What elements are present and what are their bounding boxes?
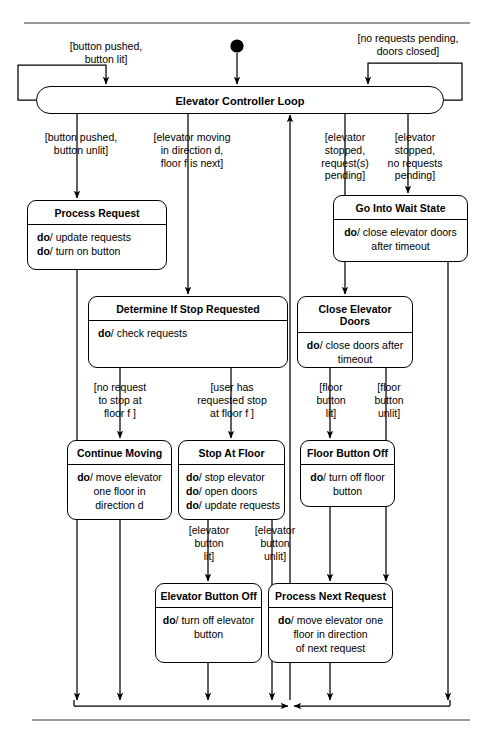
state-process-request[interactable]: Process Request do/ update requests do/ … (27, 200, 167, 270)
state-actions: do/ move elevator one floor in direction… (269, 608, 392, 662)
action-line: button (194, 628, 223, 640)
state-stop-at-floor[interactable]: Stop At Floor do/ stop elevator do/ open… (178, 440, 285, 520)
guard-user-requested-stop: [user has requested stop at floor f ] (180, 381, 284, 419)
state-actions: do/ move elevator one floor in direction… (68, 465, 171, 519)
state-title: Elevator Button Off (156, 584, 261, 608)
action-line: / update requests (199, 499, 280, 511)
state-elevator-button-off[interactable]: Elevator Button Off do/ turn off elevato… (155, 583, 262, 663)
initial-dot (230, 39, 243, 52)
state-continue-moving[interactable]: Continue Moving do/ move elevator one fl… (67, 440, 172, 520)
action-line: one floor in (94, 485, 146, 497)
action-line: / turn off elevator (176, 614, 255, 626)
state-close-elevator-doors[interactable]: Close Elevator Doors do/ close doors aft… (297, 296, 413, 368)
state-floor-button-off[interactable]: Floor Button Off do/ turn off floor butt… (300, 440, 395, 507)
state-actions: do/ update requests do/ turn on button (28, 225, 166, 265)
action-line: / turn on button (50, 245, 121, 257)
guard-elevator-button-lit: [elevator button lit] (178, 524, 240, 562)
action-line: / close elevator doors (357, 226, 457, 238)
guard-floor-button-unlit: [floor button unlit] (358, 381, 420, 419)
action-line: button (333, 485, 362, 497)
guard-button-pushed-lit: [button pushed, button lit] (26, 40, 186, 66)
state-actions: do/ close doors after timeout (298, 333, 412, 373)
action-line: of next request (296, 642, 365, 654)
guard-no-request-to-stop: [no request to stop at floor f ] (72, 381, 168, 419)
state-title: Process Next Request (269, 584, 392, 608)
state-title: Close Elevator Doors (298, 297, 412, 333)
state-actions: do/ turn off elevator button (156, 608, 261, 648)
guard-elevator-button-unlit: [elevator button unlit] (242, 524, 308, 562)
state-title: Determine If Stop Requested (89, 297, 287, 321)
action-line: after timeout (371, 240, 429, 252)
state-title: Stop At Floor (179, 441, 284, 465)
action-line: / close doors after (320, 339, 403, 351)
state-diagram-canvas: Elevator Controller Loop Process Request… (0, 0, 486, 739)
state-actions: do/ stop elevator do/ open doors do/ upd… (179, 465, 284, 519)
state-elevator-controller-loop[interactable]: Elevator Controller Loop (36, 86, 444, 114)
action-line: / move elevator (90, 471, 162, 483)
action-line: / stop elevator (199, 471, 265, 483)
state-actions: do/ check requests (89, 321, 287, 347)
state-title: Floor Button Off (301, 441, 394, 465)
state-actions: do/ turn off floor button (301, 465, 394, 505)
action-line: / open doors (199, 485, 257, 497)
action-line: timeout (338, 353, 372, 365)
state-go-into-wait-state[interactable]: Go Into Wait State do/ close elevator do… (333, 195, 468, 262)
guard-elevator-moving: [elevator moving in direction d, floor f… (130, 131, 254, 169)
guard-floor-button-lit: [floor button lit] (302, 381, 360, 419)
state-title: Go Into Wait State (334, 196, 467, 220)
state-process-next-request[interactable]: Process Next Request do/ move elevator o… (268, 583, 393, 663)
state-actions: do/ close elevator doors after timeout (334, 220, 467, 260)
state-title: Continue Moving (68, 441, 171, 465)
action-line: direction d (95, 499, 143, 511)
loop-bar-label: Elevator Controller Loop (37, 87, 443, 115)
action-line: / update requests (50, 231, 131, 243)
state-title: Process Request (28, 201, 166, 225)
guard-no-requests-pending-doors-closed: [no requests pending, doors closed] (330, 32, 486, 58)
state-determine-if-stop-requested[interactable]: Determine If Stop Requested do/ check re… (88, 296, 288, 368)
action-line: / check requests (111, 327, 187, 339)
guard-elevator-stopped-no-requests: [elevator stopped, no requests pending] (372, 131, 458, 182)
action-line: / move elevator one (291, 614, 383, 626)
action-line: / turn off floor (323, 471, 385, 483)
action-line: floor in direction (293, 628, 367, 640)
